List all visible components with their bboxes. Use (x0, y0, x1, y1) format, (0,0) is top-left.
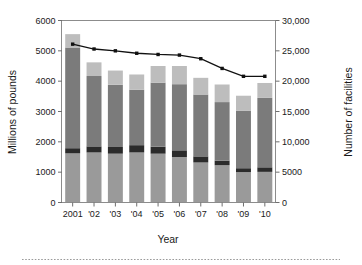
chart-figure: Millions of pounds Number of facilities … (0, 0, 362, 265)
bar-segment-4 (172, 66, 187, 84)
y2-tick-label: 10,000 (282, 137, 310, 147)
x-tick-label: '09 (238, 209, 250, 219)
bar-group (193, 78, 208, 203)
bar-segment-2 (215, 161, 230, 166)
bar-group (257, 83, 272, 203)
facilities-marker (199, 57, 202, 60)
y-axis-title: Millions of pounds (6, 70, 18, 154)
y2-tick-label: 15,000 (282, 107, 310, 117)
facilities-marker (220, 67, 223, 70)
y2-tick-label: 5000 (282, 167, 302, 177)
bar-segment-2 (236, 168, 251, 172)
bar-segment-3 (215, 102, 230, 161)
bar-segment-3 (87, 76, 102, 146)
x-tick-label: 2001 (63, 209, 83, 219)
y-tick-label: 5000 (35, 46, 55, 56)
bar-segment-1 (65, 153, 80, 202)
y-tick-label: 1000 (35, 167, 55, 177)
facilities-marker (156, 53, 159, 56)
bar-segment-3 (257, 98, 272, 167)
bar-segment-1 (108, 154, 123, 203)
bar-segment-2 (87, 146, 102, 152)
facilities-marker (263, 75, 266, 78)
bar-segment-1 (87, 152, 102, 202)
bar-segment-3 (193, 95, 208, 157)
bar-segment-3 (108, 85, 123, 147)
bar-group (108, 71, 123, 203)
bar-segment-3 (65, 48, 80, 149)
x-tick-label: '04 (131, 209, 143, 219)
bar-segment-2 (172, 150, 187, 157)
x-tick-label: '02 (88, 209, 100, 219)
y2-tick-label: 20,000 (282, 76, 310, 86)
y-tick-label: 2000 (35, 137, 55, 147)
bar-segment-1 (151, 154, 166, 203)
bar-segment-2 (129, 145, 144, 152)
bar-segment-4 (87, 62, 102, 76)
y-tick-label: 0 (50, 198, 55, 208)
bar-group (151, 66, 166, 203)
bar-group (172, 66, 187, 203)
y-tick-label: 3000 (35, 107, 55, 117)
bar-segment-1 (172, 157, 187, 203)
bar-segment-1 (257, 172, 272, 203)
x-tick-label: '03 (110, 209, 122, 219)
bar-segment-1 (215, 165, 230, 202)
bar-segment-2 (65, 148, 80, 153)
facilities-marker (71, 42, 74, 45)
bar-segment-2 (257, 167, 272, 172)
y2-tick-label: 25,000 (282, 46, 310, 56)
x-tick-label: '07 (195, 209, 207, 219)
bar-segment-2 (151, 147, 166, 154)
bar-group (129, 74, 144, 202)
bar-segment-4 (151, 66, 166, 83)
bar-segment-4 (257, 83, 272, 98)
bar-segment-4 (193, 78, 208, 95)
y-tick-label: 6000 (35, 16, 55, 26)
x-axis-title: Year (157, 233, 179, 245)
bar-segment-1 (129, 152, 144, 202)
bar-group (215, 85, 230, 203)
facilities-marker (114, 49, 117, 52)
y-tick-label: 4000 (35, 76, 55, 86)
bar-segment-3 (172, 84, 187, 150)
stacked-bar-line-chart: Millions of pounds Number of facilities … (0, 0, 362, 265)
bar-segment-3 (151, 83, 166, 147)
bar-segment-3 (236, 111, 251, 169)
y2-tick-label: 0 (282, 198, 287, 208)
bar-group (87, 62, 102, 202)
bar-segment-4 (129, 74, 144, 89)
x-tick-label: '10 (259, 209, 271, 219)
bar-segment-1 (193, 162, 208, 202)
bar-segment-2 (108, 147, 123, 154)
bar-segment-1 (236, 172, 251, 202)
facilities-marker (92, 47, 95, 50)
bar-group (236, 96, 251, 203)
x-tick-label: '06 (174, 209, 186, 219)
facilities-marker (135, 52, 138, 55)
facilities-marker (178, 53, 181, 56)
facilities-marker (242, 75, 245, 78)
bar-segment-4 (215, 85, 230, 103)
bar-group (65, 34, 80, 202)
y2-axis-title: Number of facilities (342, 67, 354, 156)
bar-segment-4 (236, 96, 251, 111)
y2-tick-label: 30,000 (282, 16, 310, 26)
bar-segment-3 (129, 90, 144, 146)
bar-segment-2 (193, 156, 208, 162)
x-tick-label: '05 (152, 209, 164, 219)
x-tick-label: '08 (216, 209, 228, 219)
bar-segment-4 (108, 71, 123, 85)
